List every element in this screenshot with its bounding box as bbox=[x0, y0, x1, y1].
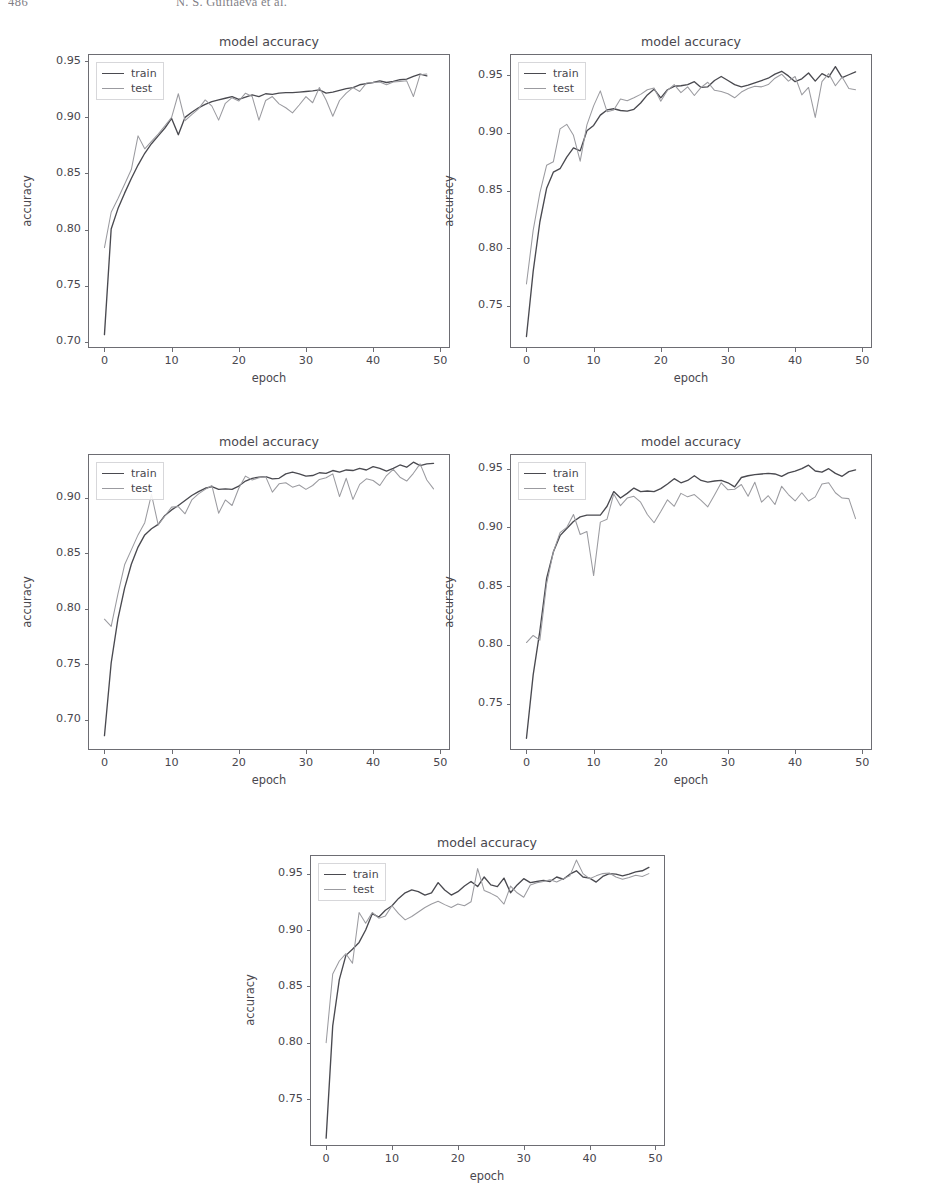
y-axis-label: accuracy bbox=[243, 950, 257, 1050]
legend-label-train: train bbox=[553, 68, 579, 79]
x-tick-mark bbox=[306, 348, 307, 352]
legend-entry-test: test bbox=[324, 882, 379, 897]
legend-label-test: test bbox=[553, 83, 574, 94]
series-line-test bbox=[104, 464, 433, 627]
chart-title: model accuracy bbox=[367, 835, 607, 850]
y-axis-label: accuracy bbox=[20, 552, 34, 652]
figure-model-accuracy-2: model accuracy0.750.800.850.900.95010203… bbox=[0, 0, 928, 1196]
legend-entry-train: train bbox=[524, 66, 579, 81]
legend-line-icon-train bbox=[524, 473, 546, 474]
chart-title: model accuracy bbox=[149, 434, 389, 449]
x-tick-label: 10 bbox=[564, 354, 624, 367]
y-tick-mark bbox=[85, 173, 89, 174]
y-tick-label: 0.85 bbox=[443, 579, 503, 592]
x-tick-mark bbox=[862, 348, 863, 352]
x-tick-mark bbox=[326, 1146, 327, 1150]
x-tick-mark bbox=[392, 1146, 393, 1150]
y-tick-mark bbox=[507, 469, 511, 470]
y-axis-label: accuracy bbox=[20, 151, 34, 251]
legend-line-icon-test bbox=[102, 88, 124, 89]
y-tick-mark bbox=[85, 609, 89, 610]
x-tick-mark bbox=[862, 750, 863, 754]
y-tick-label: 0.80 bbox=[21, 601, 81, 614]
x-tick-label: 10 bbox=[142, 756, 202, 769]
x-tick-mark bbox=[239, 348, 240, 352]
y-tick-mark bbox=[307, 930, 311, 931]
chart-title: model accuracy bbox=[571, 434, 811, 449]
figure-model-accuracy-4: model accuracy0.750.800.850.900.95010203… bbox=[0, 0, 928, 1196]
y-tick-mark bbox=[85, 498, 89, 499]
chart-legend: traintest bbox=[318, 863, 386, 901]
x-tick-label: 50 bbox=[832, 756, 892, 769]
y-tick-label: 0.95 bbox=[443, 461, 503, 474]
legend-entry-train: train bbox=[102, 66, 157, 81]
chart-legend: traintest bbox=[518, 462, 586, 500]
y-tick-mark bbox=[507, 586, 511, 587]
x-tick-label: 20 bbox=[428, 1152, 488, 1165]
y-tick-label: 0.75 bbox=[243, 1092, 303, 1105]
x-tick-mark bbox=[458, 1146, 459, 1150]
x-tick-label: 20 bbox=[631, 354, 691, 367]
legend-label-test: test bbox=[131, 83, 152, 94]
x-tick-label: 0 bbox=[74, 354, 134, 367]
y-tick-label: 0.90 bbox=[21, 110, 81, 123]
series-layer bbox=[0, 0, 928, 1196]
y-tick-mark bbox=[307, 986, 311, 987]
x-tick-label: 20 bbox=[209, 354, 269, 367]
legend-label-test: test bbox=[131, 483, 152, 494]
y-tick-label: 0.85 bbox=[243, 979, 303, 992]
x-tick-label: 30 bbox=[698, 756, 758, 769]
x-tick-mark bbox=[795, 750, 796, 754]
y-axis-label: accuracy bbox=[442, 552, 456, 652]
running-title: N. S. Gultiaeva et al. bbox=[176, 0, 287, 9]
y-tick-label: 0.90 bbox=[243, 923, 303, 936]
legend-label-test: test bbox=[353, 884, 374, 895]
y-tick-label: 0.95 bbox=[443, 68, 503, 81]
legend-entry-train: train bbox=[524, 466, 579, 481]
x-tick-label: 20 bbox=[209, 756, 269, 769]
legend-line-icon-test bbox=[524, 488, 546, 489]
legend-label-train: train bbox=[131, 68, 157, 79]
x-tick-label: 30 bbox=[494, 1152, 554, 1165]
x-tick-mark bbox=[594, 750, 595, 754]
legend-label-train: train bbox=[353, 869, 379, 880]
x-tick-label: 50 bbox=[410, 354, 470, 367]
legend-label-test: test bbox=[553, 483, 574, 494]
x-tick-label: 30 bbox=[276, 354, 336, 367]
plot-area bbox=[88, 54, 450, 348]
figure-model-accuracy-5: model accuracy0.750.800.850.900.95010203… bbox=[0, 0, 928, 1196]
legend-line-icon-train bbox=[524, 73, 546, 74]
series-line-test bbox=[104, 74, 426, 248]
series-line-test bbox=[526, 482, 855, 642]
plot-area bbox=[310, 855, 665, 1146]
series-line-test bbox=[326, 860, 649, 1043]
x-tick-label: 30 bbox=[276, 756, 336, 769]
y-tick-mark bbox=[85, 286, 89, 287]
series-layer bbox=[0, 0, 928, 1196]
y-tick-mark bbox=[507, 645, 511, 646]
chart-title: model accuracy bbox=[149, 34, 389, 49]
y-tick-mark bbox=[307, 1099, 311, 1100]
y-tick-label: 0.70 bbox=[21, 334, 81, 347]
series-line-train bbox=[526, 67, 855, 337]
x-tick-mark bbox=[373, 348, 374, 352]
x-axis-label: epoch bbox=[169, 773, 369, 787]
series-layer bbox=[0, 0, 928, 1196]
x-tick-mark bbox=[526, 348, 527, 352]
x-tick-label: 40 bbox=[343, 756, 403, 769]
x-tick-mark bbox=[172, 750, 173, 754]
legend-entry-test: test bbox=[102, 481, 157, 496]
x-tick-mark bbox=[306, 750, 307, 754]
y-tick-label: 0.70 bbox=[21, 712, 81, 725]
x-tick-label: 0 bbox=[496, 354, 556, 367]
x-tick-mark bbox=[373, 750, 374, 754]
legend-entry-test: test bbox=[524, 81, 579, 96]
series-line-train bbox=[526, 465, 855, 738]
legend-label-train: train bbox=[553, 468, 579, 479]
series-line-train bbox=[104, 74, 426, 335]
x-tick-label: 50 bbox=[832, 354, 892, 367]
y-tick-mark bbox=[85, 553, 89, 554]
chart-legend: traintest bbox=[96, 462, 164, 500]
x-axis-label: epoch bbox=[591, 773, 791, 787]
x-tick-label: 40 bbox=[765, 354, 825, 367]
